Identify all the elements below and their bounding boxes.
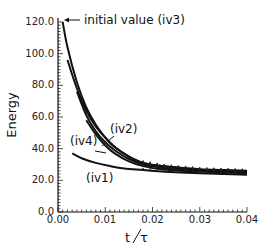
energy-decay-chart: 0.0 20.0 40.0 60.0 80.0 100.0 120.0 0.00…	[0, 0, 267, 252]
x-axis-label: t τ	[125, 229, 148, 245]
x-tick-0.02: 0.02	[141, 214, 163, 225]
y-tick-100: 100.0	[25, 48, 54, 59]
y-tick-120: 120.0	[25, 16, 54, 27]
series-curve-start-96-	[68, 60, 248, 172]
y-tick-labels: 0.0 20.0 40.0 60.0 80.0 100.0 120.0	[25, 16, 54, 217]
annotation-iv1: (iv1)	[86, 171, 113, 185]
iv4-pointer	[95, 151, 106, 153]
y-tick-40: 40.0	[32, 143, 54, 154]
annotation-iv3: initial value (iv3)	[84, 13, 185, 27]
y-tick-80: 80.0	[32, 79, 54, 90]
annotation-iv4: (iv4)	[70, 134, 97, 148]
x-axis-label-t: t	[125, 230, 130, 245]
series-iv2	[77, 92, 247, 173]
series-iv3	[63, 22, 247, 171]
x-tick-0.03: 0.03	[189, 214, 211, 225]
x-tick-labels: 0.00 0.01 0.02 0.03 0.04	[47, 214, 258, 225]
y-tick-60: 60.0	[32, 111, 54, 122]
x-tick-0.04: 0.04	[236, 214, 258, 225]
x-tick-0.01: 0.01	[94, 214, 116, 225]
x-tick-0.00: 0.00	[47, 214, 69, 225]
y-axis-label: Energy	[4, 92, 19, 138]
annotation-iv2: (iv2)	[110, 122, 137, 136]
x-axis-label-tau: τ	[140, 230, 148, 245]
data-series	[63, 22, 247, 175]
y-tick-20: 20.0	[32, 174, 54, 185]
iv3-arrow-head	[64, 18, 69, 23]
